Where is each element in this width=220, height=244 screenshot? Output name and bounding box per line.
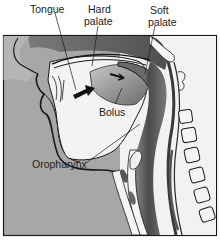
label-hard-palate-line1: Hard — [88, 4, 111, 15]
label-bolus: Bolus — [99, 107, 125, 118]
label-oropharynx: Oropharynx — [32, 159, 87, 170]
label-soft-palate-line2: palate — [148, 17, 177, 28]
label-soft-palate-line1: Soft — [150, 5, 169, 16]
anatomy-illustration — [0, 0, 220, 244]
label-hard-palate-line2: palate — [84, 16, 113, 27]
label-tongue: Tongue — [30, 4, 64, 15]
swallowing-anatomy-diagram: Tongue Hard palate Soft palate Bolus Oro… — [0, 0, 220, 244]
